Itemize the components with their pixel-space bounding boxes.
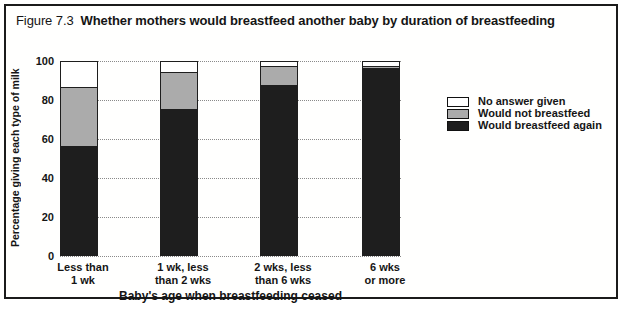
figure-title: Whether mothers would breastfeed another… [81,13,555,28]
y-tick-80: 80 [28,95,54,106]
x-category-1wk-less-2wks: 1 wk, less than 2 wks [125,261,241,286]
x-category-line: 1 wk, less [157,261,208,273]
segment-no-answer [160,61,198,73]
legend-item-would-not: Would not breastfeed [447,109,602,118]
gridline-80 [60,100,401,101]
x-category-line: 1 wk [71,274,95,286]
gridline-100 [60,61,401,62]
legend-label: Would breastfeed again [478,120,602,131]
bar-less-than-1wk [60,61,98,256]
x-category-line: 6 wks [370,261,400,273]
segment-would-not [60,88,98,147]
segment-would-not [160,73,198,110]
y-tick-20: 20 [28,212,54,223]
figure-frame: Figure 7.3Whether mothers would breastfe… [4,4,618,299]
gridline-40 [60,178,401,179]
segment-no-answer [60,61,98,88]
gridline-60 [60,139,401,140]
segment-would-again [60,147,98,256]
x-category-line: 2 wks, less [254,261,312,273]
legend-label: Would not breastfeed [478,108,590,119]
x-category-6wks-or-more: 6 wks or more [327,261,443,286]
legend-item-would-again: Would breastfeed again [447,121,602,130]
y-axis-ticks: 100 80 60 40 20 0 [28,6,54,297]
gridline-0 [60,256,401,257]
figure-title-row: Figure 7.3Whether mothers would breastfe… [16,13,611,28]
legend-label: No answer given [478,96,565,107]
x-category-line: than 2 wks [155,274,211,286]
x-category-2wks-less-6wks: 2 wks, less than 6 wks [225,261,341,286]
y-axis-label: Percentage giving each type of milk [9,58,25,258]
x-category-line: Less than [57,261,108,273]
legend-swatch-black [447,121,469,131]
legend: No answer given Would not breastfeed Wou… [447,97,602,133]
legend-item-no-answer: No answer given [447,97,602,106]
y-tick-100: 100 [28,56,54,67]
x-category-line: than 6 wks [255,274,311,286]
segment-would-again [260,86,298,256]
y-tick-40: 40 [28,173,54,184]
segment-would-again [160,110,198,256]
x-category-line: or more [365,274,406,286]
bar-1wk-less-than-2wks [160,61,198,256]
x-category-less-than-1wk: Less than 1 wk [25,261,141,286]
plot-area [60,61,401,256]
bar-2wks-less-than-6wks [260,61,298,256]
bar-6wks-or-more [362,61,400,256]
legend-swatch-white [447,97,469,107]
y-tick-60: 60 [28,134,54,145]
gridline-20 [60,217,401,218]
legend-swatch-gray [447,109,469,119]
x-axis-label: Baby's age when breastfeeding ceased [60,289,401,303]
segment-would-not [260,67,298,87]
segment-would-again [362,69,400,256]
